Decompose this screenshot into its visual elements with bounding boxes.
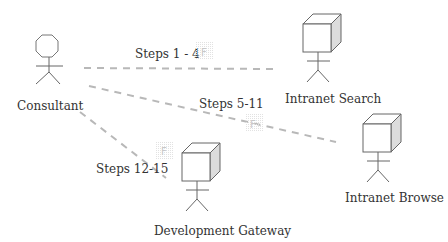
actor-leg-left bbox=[367, 170, 378, 182]
actor-label: Consultant bbox=[17, 99, 84, 113]
badge-browse: F bbox=[245, 114, 263, 132]
actor-leg-left bbox=[186, 199, 197, 211]
connection-label-gateway: Steps 12-15 bbox=[96, 162, 168, 176]
actor-leg-right bbox=[318, 70, 329, 82]
connection-label-search: Steps 1 - 4 bbox=[135, 47, 200, 61]
actor-intranet-browse[interactable]: Intranet Browse bbox=[345, 114, 444, 205]
connection-line-search[interactable] bbox=[84, 68, 277, 69]
badge-search: F bbox=[196, 42, 214, 60]
badge-letter: F bbox=[161, 146, 167, 157]
actor-label: Development Gateway bbox=[154, 224, 291, 238]
cube-head-icon bbox=[363, 114, 401, 152]
interaction-diagram: Steps 1 - 4 Steps 5-11 Steps 12-15 F F F… bbox=[0, 0, 448, 242]
badge-letter: F bbox=[201, 47, 207, 58]
actor-leg-right bbox=[197, 199, 208, 211]
octagon-head-icon bbox=[36, 35, 58, 57]
connection-label-browse: Steps 5-11 bbox=[199, 97, 264, 111]
actor-leg-right bbox=[49, 72, 60, 84]
actor-leg-left bbox=[307, 70, 318, 82]
badge-letter: F bbox=[250, 119, 256, 130]
actor-label: Intranet Browse bbox=[345, 191, 444, 205]
cube-head-icon bbox=[182, 143, 220, 181]
actor-leg-right bbox=[378, 170, 389, 182]
actor-development-gateway[interactable]: Development Gateway bbox=[154, 143, 291, 238]
badge-gateway: F bbox=[156, 141, 174, 159]
cube-head-icon bbox=[303, 14, 341, 52]
actor-leg-left bbox=[36, 72, 49, 84]
actor-intranet-search[interactable]: Intranet Search bbox=[285, 14, 382, 106]
actor-label: Intranet Search bbox=[285, 92, 382, 106]
actor-consultant[interactable]: Consultant bbox=[17, 35, 84, 113]
